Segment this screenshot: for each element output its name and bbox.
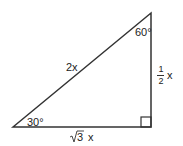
- angle-bottom-left-label: 30°: [27, 117, 44, 128]
- fraction-denominator: 2: [157, 77, 165, 86]
- angle-top-label: 60°: [135, 27, 152, 38]
- horizontal-leg-variable: x: [88, 132, 94, 143]
- vertical-leg-variable: x: [167, 70, 173, 81]
- sqrt-radicand: 3: [77, 132, 83, 143]
- right-angle-marker: [141, 117, 151, 127]
- fraction-numerator: 1: [157, 65, 165, 74]
- triangle: [13, 13, 151, 127]
- hypotenuse-label: 2x: [66, 62, 78, 73]
